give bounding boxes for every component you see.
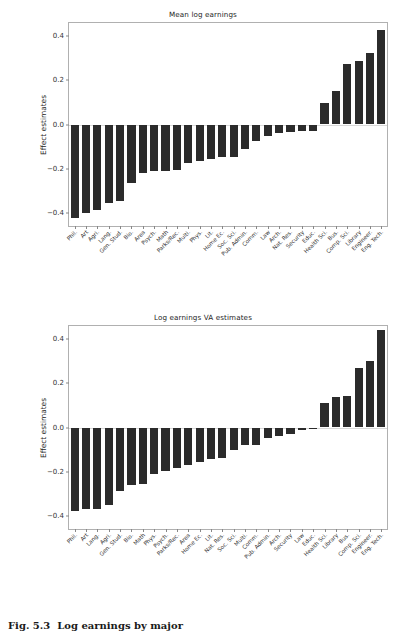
- bar: [355, 368, 363, 427]
- bar: [173, 125, 181, 170]
- bar: [150, 125, 158, 171]
- bar: [139, 125, 147, 174]
- x-tick-mark: [177, 529, 178, 532]
- bar: [105, 428, 113, 505]
- x-tick-mark: [154, 529, 155, 532]
- figure-number: Fig. 5.3: [8, 620, 50, 631]
- figure-caption: Fig. 5.3Log earnings by major: [8, 620, 183, 631]
- bar: [275, 125, 283, 134]
- x-tick-mark: [166, 226, 167, 229]
- y-tick-mark: [66, 80, 69, 81]
- x-tick-mark: [347, 529, 348, 532]
- bar: [264, 125, 272, 137]
- bar: [127, 125, 135, 183]
- x-tick-mark: [166, 529, 167, 532]
- bar: [105, 125, 113, 204]
- bar: [207, 428, 215, 459]
- x-tick-mark: [381, 226, 382, 229]
- x-tick-mark: [347, 226, 348, 229]
- y-axis-label-top: Effect estimates: [39, 95, 48, 155]
- x-tick-mark: [302, 226, 303, 229]
- bar: [309, 428, 317, 429]
- bar: [366, 53, 374, 125]
- x-tick-mark: [370, 226, 371, 229]
- bar: [241, 125, 249, 150]
- x-tick-mark: [177, 226, 178, 229]
- bar: [127, 428, 135, 486]
- bar: [298, 428, 306, 430]
- bar: [218, 428, 226, 458]
- x-tick-mark: [200, 529, 201, 532]
- bar: [82, 125, 90, 213]
- y-tick-mark: [66, 36, 69, 37]
- x-tick-mark: [75, 226, 76, 229]
- x-tick-mark: [86, 226, 87, 229]
- bar: [93, 428, 101, 509]
- x-tick-mark: [188, 226, 189, 229]
- bar: [218, 125, 226, 158]
- bar: [264, 428, 272, 439]
- y-tick-mark: [66, 339, 69, 340]
- x-tick-mark: [325, 529, 326, 532]
- bar: [161, 428, 169, 471]
- bar: [150, 428, 158, 475]
- y-tick-mark: [66, 383, 69, 384]
- plot-area-bottom: [69, 326, 387, 529]
- x-tick-mark: [370, 529, 371, 532]
- y-tick-mark: [66, 515, 69, 516]
- x-tick-mark: [234, 226, 235, 229]
- axes-top: Effect estimates 0.40.20.0−0.2−0.4 Phil.…: [68, 22, 388, 227]
- chart-title-bottom: Log earnings VA estimates: [0, 313, 406, 322]
- bar: [196, 125, 204, 161]
- bar: [241, 428, 249, 446]
- x-tick-mark: [200, 226, 201, 229]
- bar: [343, 64, 351, 125]
- x-tick-mark: [188, 529, 189, 532]
- bar: [252, 125, 260, 142]
- x-tick-mark: [143, 529, 144, 532]
- bar: [82, 428, 90, 510]
- bar: [377, 330, 385, 427]
- bar: [320, 103, 328, 124]
- y-tick-mark: [66, 427, 69, 428]
- bar: [252, 428, 260, 445]
- bar: [71, 125, 79, 218]
- bar: [355, 61, 363, 125]
- x-tick-mark: [109, 226, 110, 229]
- x-tick-mark: [359, 529, 360, 532]
- y-axis-label-bottom: Effect estimates: [39, 398, 48, 458]
- bar: [184, 125, 192, 164]
- x-tick-mark: [290, 529, 291, 532]
- y-tick-mark: [66, 471, 69, 472]
- x-axis-top: Phil.ArtAgri.Lang.Gen. Stud.Bio.AreaPsyc…: [69, 226, 387, 282]
- bar: [230, 428, 238, 451]
- x-tick-mark: [256, 529, 257, 532]
- x-tick-mark: [268, 529, 269, 532]
- x-tick-mark: [245, 226, 246, 229]
- x-tick-mark: [336, 529, 337, 532]
- bar: [184, 428, 192, 466]
- x-tick-mark: [211, 226, 212, 229]
- bar: [309, 125, 317, 132]
- x-tick-mark: [109, 529, 110, 532]
- bar: [298, 125, 306, 132]
- x-tick-mark: [302, 529, 303, 532]
- x-tick-mark: [279, 529, 280, 532]
- bar: [207, 125, 215, 159]
- bar: [286, 125, 294, 133]
- chart-title-top: Mean log earnings: [0, 10, 406, 19]
- bar: [116, 428, 124, 492]
- x-axis-bottom: Phil.ArtLang.Agri.Gen. Stud.Bio.MathPhys…: [69, 529, 387, 585]
- x-tick-mark: [120, 226, 121, 229]
- bar: [343, 396, 351, 427]
- x-tick-mark: [131, 529, 132, 532]
- x-tick-mark: [75, 529, 76, 532]
- x-tick-mark: [97, 226, 98, 229]
- x-tick-mark: [143, 226, 144, 229]
- bar: [377, 30, 385, 124]
- x-tick-mark: [381, 529, 382, 532]
- chart-panel-log-earnings-va: Log earnings VA estimates Effect estimat…: [0, 303, 406, 603]
- x-tick-mark: [86, 529, 87, 532]
- bar: [196, 428, 204, 462]
- plot-area-top: [69, 23, 387, 226]
